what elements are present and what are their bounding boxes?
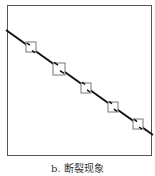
figure-caption: b. 断裂现象	[0, 160, 155, 175]
diagram-frame	[8, 6, 152, 156]
fracture-diagram	[0, 0, 155, 176]
